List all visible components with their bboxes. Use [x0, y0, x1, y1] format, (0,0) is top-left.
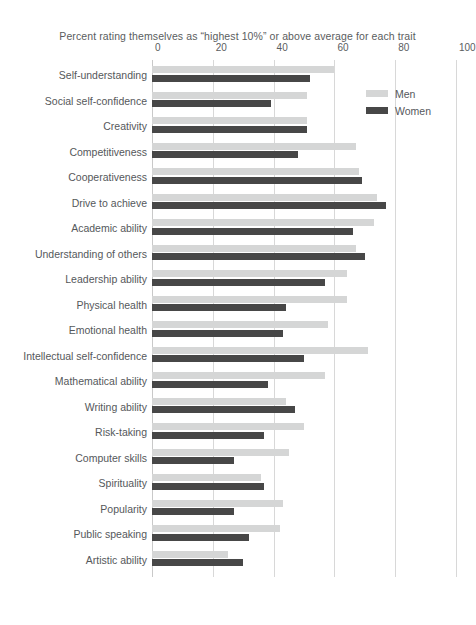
chart-row: Intellectual self-confidence [152, 346, 456, 372]
bar-women [152, 202, 386, 209]
chart-row: Competitiveness [152, 142, 456, 168]
category-label: Leadership ability [65, 273, 147, 285]
chart-title: Percent rating themselves as “highest 10… [0, 30, 475, 42]
bar-women [152, 75, 310, 82]
chart-row: Cooperativeness [152, 167, 456, 193]
bar-women [152, 406, 295, 413]
x-tick-label-60: 60 [337, 42, 348, 53]
chart-legend: MenWomen [366, 85, 431, 119]
bar-women [152, 381, 268, 388]
category-label: Artistic ability [86, 554, 147, 566]
bar-men [152, 245, 356, 252]
chart-row: Leadership ability [152, 269, 456, 295]
bar-women [152, 304, 286, 311]
category-label: Writing ability [85, 401, 147, 413]
chart-row: Academic ability [152, 218, 456, 244]
category-label: Creativity [103, 120, 147, 132]
bar-men [152, 551, 228, 558]
bar-men [152, 500, 283, 507]
bar-women [152, 457, 234, 464]
x-tick-label-20: 20 [216, 42, 227, 53]
chart-row: Spirituality [152, 473, 456, 499]
bar-women [152, 508, 234, 515]
legend-swatch-women [366, 107, 388, 114]
bar-men [152, 66, 334, 73]
chart-row: Understanding of others [152, 244, 456, 270]
bar-women [152, 355, 304, 362]
chart-row: Popularity [152, 499, 456, 525]
category-label: Computer skills [75, 452, 147, 464]
category-label: Intellectual self-confidence [23, 350, 147, 362]
category-label: Spirituality [99, 477, 147, 489]
bar-men [152, 321, 328, 328]
bar-women [152, 432, 264, 439]
chart-row: Writing ability [152, 397, 456, 423]
bar-women [152, 534, 249, 541]
bar-women [152, 253, 365, 260]
chart-row: Emotional health [152, 320, 456, 346]
bar-men [152, 372, 325, 379]
bar-women [152, 177, 362, 184]
chart-row: Public speaking [152, 524, 456, 550]
bar-men [152, 347, 368, 354]
legend-label: Men [395, 88, 415, 100]
bar-men [152, 525, 280, 532]
bar-men [152, 219, 374, 226]
chart-row: Artistic ability [152, 550, 456, 576]
x-tick-label-100: 100 [459, 42, 476, 53]
bar-women [152, 483, 264, 490]
legend-label: Women [395, 105, 431, 117]
bar-men [152, 168, 359, 175]
category-label: Popularity [100, 503, 147, 515]
chart-row: Computer skills [152, 448, 456, 474]
bar-men [152, 296, 347, 303]
category-label: Competitiveness [69, 146, 147, 158]
bar-women [152, 559, 243, 566]
category-label: Emotional health [69, 324, 147, 336]
chart-row: Creativity [152, 116, 456, 142]
bar-men [152, 449, 289, 456]
bar-men [152, 474, 261, 481]
bar-men [152, 92, 307, 99]
category-label: Academic ability [71, 222, 147, 234]
bar-women [152, 228, 353, 235]
category-label: Drive to achieve [72, 197, 147, 209]
chart-row: Drive to achieve [152, 193, 456, 219]
legend-item-men: Men [366, 85, 431, 102]
bar-men [152, 117, 307, 124]
x-tick-label-40: 40 [277, 42, 288, 53]
category-label: Mathematical ability [55, 375, 147, 387]
category-label: Public speaking [73, 528, 147, 540]
x-tick-label-0: 0 [155, 42, 161, 53]
category-label: Understanding of others [35, 248, 147, 260]
category-label: Social self-confidence [45, 95, 147, 107]
plot-area: 020406080100Self-understandingSocial sel… [152, 60, 456, 577]
x-tick-label-80: 80 [398, 42, 409, 53]
chart-row: Risk-taking [152, 422, 456, 448]
legend-item-women: Women [366, 102, 431, 119]
bar-men [152, 194, 377, 201]
chart-row: Mathematical ability [152, 371, 456, 397]
bar-women [152, 330, 283, 337]
category-label: Risk-taking [95, 426, 147, 438]
bar-women [152, 151, 298, 158]
bar-men [152, 270, 347, 277]
category-label: Physical health [76, 299, 147, 311]
bar-men [152, 423, 304, 430]
bar-men [152, 398, 286, 405]
category-label: Self-understanding [59, 69, 147, 81]
chart-row: Physical health [152, 295, 456, 321]
bar-women [152, 100, 271, 107]
bar-women [152, 126, 307, 133]
legend-swatch-men [366, 90, 388, 97]
bar-women [152, 279, 325, 286]
gridline-100 [456, 60, 457, 577]
category-label: Cooperativeness [68, 171, 147, 183]
bar-men [152, 143, 356, 150]
